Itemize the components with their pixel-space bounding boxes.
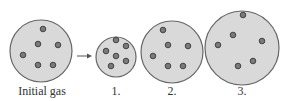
gas-particle: [55, 42, 61, 48]
gas-particle: [123, 43, 129, 49]
container-option-2: [141, 21, 203, 83]
gas-particle: [113, 37, 119, 43]
gas-particle: [150, 53, 156, 59]
gas-particle: [50, 62, 56, 68]
gas-particle: [35, 41, 41, 47]
label-option-2: 2.: [156, 84, 188, 99]
label-option-1: 1.: [100, 84, 132, 99]
gas-particle: [235, 63, 241, 69]
arrowhead-icon: [87, 54, 92, 59]
gas-particle: [20, 52, 26, 58]
gas-particle: [123, 58, 129, 64]
label-initial-gas: Initial gas: [6, 84, 78, 99]
gas-particle: [40, 26, 46, 32]
gas-particle: [259, 38, 265, 44]
gas-particle: [250, 58, 256, 64]
gas-particle: [215, 42, 221, 48]
gas-particle: [35, 62, 41, 68]
gas-particle: [240, 12, 246, 18]
gas-particle: [103, 48, 109, 54]
gas-particle: [160, 27, 166, 33]
gas-particle: [108, 63, 114, 69]
gas-particle: [113, 53, 119, 59]
label-option-3: 3.: [226, 84, 258, 99]
gas-particle: [230, 32, 236, 38]
gas-particle: [185, 43, 191, 49]
gas-particle: [165, 63, 171, 69]
container-option-3: [205, 11, 279, 85]
gas-particle: [180, 63, 186, 69]
gas-particle: [165, 42, 171, 48]
